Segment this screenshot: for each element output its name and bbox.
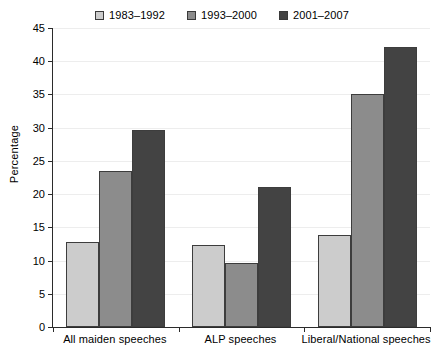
y-tick-label: 10 bbox=[33, 255, 45, 267]
legend-item: 2001–2007 bbox=[279, 9, 349, 21]
y-tick-label: 0 bbox=[39, 321, 45, 333]
y-tick-label: 30 bbox=[33, 122, 45, 134]
x-tick-mark bbox=[179, 327, 180, 332]
bar bbox=[132, 130, 165, 327]
plot-area: 051015202530354045 bbox=[52, 28, 430, 328]
legend-item: 1993–2000 bbox=[187, 9, 257, 21]
bar bbox=[351, 94, 384, 327]
bars-layer bbox=[53, 28, 430, 327]
y-tick-label: 45 bbox=[33, 22, 45, 34]
y-tick-label: 20 bbox=[33, 188, 45, 200]
legend-swatch-icon bbox=[279, 11, 288, 20]
y-axis-title: Percentage bbox=[8, 94, 20, 214]
bar bbox=[192, 245, 225, 327]
x-group-label: All maiden speeches bbox=[63, 333, 166, 345]
legend-label: 1983–1992 bbox=[109, 9, 165, 21]
bar bbox=[318, 235, 351, 327]
y-tick-label: 5 bbox=[39, 288, 45, 300]
legend-swatch-icon bbox=[187, 11, 196, 20]
bar bbox=[258, 187, 291, 327]
x-group-label: Liberal/National speeches bbox=[302, 333, 431, 345]
chart-legend: 1983–1992 1993–2000 2001–2007 bbox=[0, 9, 444, 21]
y-tick-label: 35 bbox=[33, 88, 45, 100]
bar bbox=[66, 242, 99, 327]
legend-label: 2001–2007 bbox=[293, 9, 349, 21]
legend-swatch-icon bbox=[95, 11, 104, 20]
bar bbox=[99, 171, 132, 327]
x-tick-mark bbox=[430, 327, 431, 332]
x-tick-mark bbox=[304, 327, 305, 332]
x-group-label: ALP speeches bbox=[205, 333, 277, 345]
y-tick-label: 15 bbox=[33, 221, 45, 233]
bar bbox=[384, 47, 417, 327]
y-tick-label: 25 bbox=[33, 155, 45, 167]
y-tick-label: 40 bbox=[33, 55, 45, 67]
legend-label: 1993–2000 bbox=[201, 9, 257, 21]
bar bbox=[225, 263, 258, 327]
legend-item: 1983–1992 bbox=[95, 9, 165, 21]
bar-chart: 1983–1992 1993–2000 2001–2007 Percentage… bbox=[0, 0, 444, 361]
x-tick-mark bbox=[53, 327, 54, 332]
